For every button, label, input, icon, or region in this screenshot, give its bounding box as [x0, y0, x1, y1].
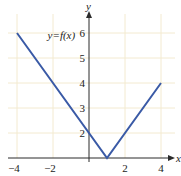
y-axis-arrow-icon [86, 11, 92, 18]
chart: −4−22423456xyy=f(x) [0, 0, 181, 176]
x-tick-label: −4 [8, 162, 20, 174]
x-axis-title: x [175, 152, 181, 164]
y-axis-title: y [85, 0, 91, 12]
x-tick-label: 2 [122, 162, 128, 174]
x-tick-label: 4 [158, 162, 164, 174]
y-tick-label: 4 [80, 77, 86, 89]
y-tick-label: 6 [80, 27, 86, 39]
function-label: y=f(x) [47, 29, 76, 42]
x-tick-label: −2 [44, 162, 56, 174]
y-tick-label: 5 [80, 52, 86, 64]
y-tick-label: 3 [80, 102, 86, 114]
y-tick-label: 2 [80, 127, 86, 139]
labels: −4−22423456xyy=f(x) [8, 0, 181, 174]
x-axis-arrow-icon [168, 155, 175, 161]
axes [8, 11, 175, 162]
